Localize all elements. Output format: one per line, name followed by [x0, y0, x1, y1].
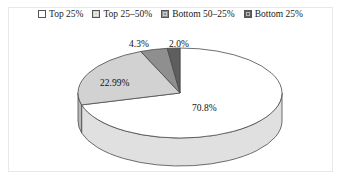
legend-swatch-top-25-50-icon — [92, 10, 100, 18]
legend-swatch-top-25-icon — [38, 10, 46, 18]
legend-label-bottom-25: Bottom 25% — [255, 9, 303, 19]
pie-slices-group — [78, 48, 282, 166]
slice-label-bottom-25: 2.0% — [169, 39, 189, 50]
slice-label-bottom-50-25: 4.3% — [129, 39, 149, 50]
legend-label-top-25: Top 25% — [49, 9, 83, 19]
chart-legend: Top 25% Top 25–50% Bottom 50–25% Bottom … — [0, 9, 341, 19]
pie-chart-plot-area: 4.3% 2.0% 22.99% 70.8% — [0, 30, 341, 180]
legend-label-bottom-50-25: Bottom 50–25% — [172, 9, 235, 19]
slice-label-top-25-50: 22.99% — [100, 78, 129, 89]
legend-swatch-bottom-25-icon — [244, 10, 252, 18]
legend-label-top-25-50: Top 25–50% — [103, 9, 152, 19]
slice-label-top-25: 70.8% — [192, 103, 217, 114]
legend-item-top-25-50: Top 25–50% — [92, 9, 152, 19]
legend-item-bottom-25: Bottom 25% — [244, 9, 303, 19]
legend-item-bottom-50-25: Bottom 50–25% — [161, 9, 235, 19]
pie-chart-figure: Top 25% Top 25–50% Bottom 50–25% Bottom … — [0, 0, 341, 180]
legend-swatch-bottom-50-25-icon — [161, 10, 169, 18]
legend-item-top-25: Top 25% — [38, 9, 83, 19]
pie-chart-svg — [0, 30, 341, 180]
